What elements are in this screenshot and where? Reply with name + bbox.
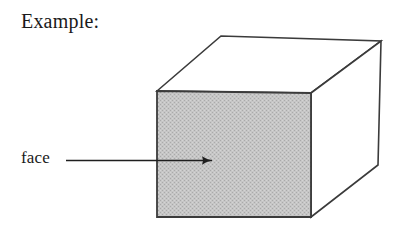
cube-diagram bbox=[0, 0, 396, 229]
face-annotation-label: face bbox=[21, 148, 50, 168]
figure-page: Example: face bbox=[0, 0, 396, 229]
cube-front-face bbox=[157, 91, 311, 217]
example-heading: Example: bbox=[21, 10, 99, 33]
